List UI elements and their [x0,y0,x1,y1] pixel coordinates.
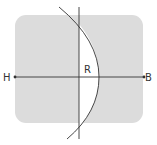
label-b: B [145,72,152,83]
label-r: R [84,64,91,75]
endpoint-dot-h [14,76,17,79]
label-h: H [3,72,11,83]
diagram: H B R [0,0,157,145]
